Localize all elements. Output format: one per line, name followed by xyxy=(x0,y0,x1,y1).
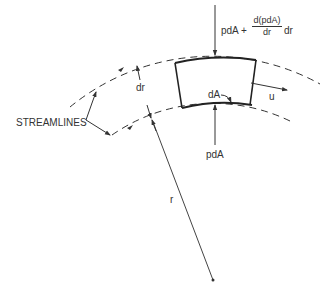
top-force-fraction: d(pdA) dr xyxy=(252,16,282,37)
thickness-arrow-up xyxy=(137,66,140,80)
streamlines-label: STREAMLINES xyxy=(16,118,87,128)
top-force-denominator: dr xyxy=(252,27,282,37)
bottom-force-label: pdA xyxy=(206,150,224,160)
inner-flow-arrowhead xyxy=(127,125,133,130)
inner-streamline xyxy=(112,103,292,135)
velocity-label: u xyxy=(269,92,275,102)
area-label: dA xyxy=(208,90,220,100)
thickness-label: dr xyxy=(136,83,145,93)
radius-line xyxy=(153,122,213,280)
streamline-element-diagram: pdA + d(pdA) dr dr pdA dA u dr r STREAML… xyxy=(0,0,335,299)
top-force-prefix: pdA + xyxy=(221,26,247,36)
fluid-element xyxy=(175,58,256,108)
radius-label: r xyxy=(170,195,173,205)
outer-flow-arrowhead xyxy=(118,67,124,72)
top-force-suffix: dr xyxy=(284,26,293,36)
radius-arrow xyxy=(152,120,156,131)
center-of-curvature xyxy=(212,279,215,282)
area-leader-arrow xyxy=(221,95,231,102)
top-force-numerator: d(pdA) xyxy=(252,16,282,27)
outer-streamline xyxy=(70,56,320,107)
diagram-graphics xyxy=(0,0,335,299)
streamlines-leader xyxy=(86,92,110,135)
velocity-arrow xyxy=(251,83,287,90)
